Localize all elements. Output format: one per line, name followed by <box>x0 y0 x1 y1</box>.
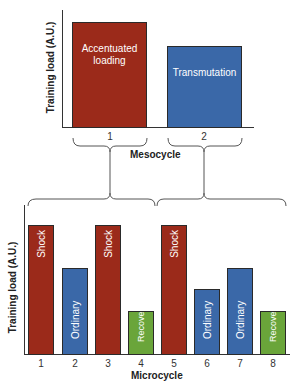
bottom-y-axis <box>24 205 25 355</box>
bottom-tick-1: 1 <box>31 358 51 369</box>
bottom-tick-6: 6 <box>197 358 217 369</box>
bottom-tick-7: 7 <box>230 358 250 369</box>
bottom-y-axis-title: Training load (A.U.) <box>7 233 18 343</box>
bottom-bar-2: Ordinary <box>62 268 88 355</box>
bottom-tick-4: 4 <box>131 358 151 369</box>
top-brace-2 <box>168 138 242 152</box>
bottom-bar-6: Ordinary <box>194 289 220 355</box>
bottom-bar-7: Ordinary <box>227 268 253 355</box>
bottom-brace-2 <box>157 193 286 206</box>
bottom-tick-2: 2 <box>65 358 85 369</box>
bottom-bar-5: Shock <box>161 225 187 355</box>
bottom-tick-5: 5 <box>164 358 184 369</box>
bottom-brace-1 <box>28 193 155 206</box>
bottom-tick-8: 8 <box>263 358 283 369</box>
bottom-bar-8: Recovery <box>260 311 286 355</box>
bottom-bar-1: Shock <box>28 225 54 355</box>
bottom-x-axis-title: Microcycle <box>131 370 183 381</box>
bottom-bar-4: Recovery <box>128 311 154 355</box>
bottom-tick-3: 3 <box>98 358 118 369</box>
bottom-bar-3: Shock <box>95 225 121 355</box>
top-brace-1 <box>73 138 147 152</box>
